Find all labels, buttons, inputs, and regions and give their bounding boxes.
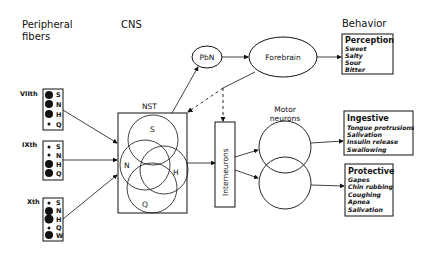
nerve-label-viith: VIIth — [20, 90, 38, 98]
arrow-viith-to-nst — [63, 110, 117, 143]
protective-item: Salivation — [348, 206, 383, 213]
forebrain-label: Forebrain — [265, 53, 301, 62]
header-cns: CNS — [121, 19, 142, 30]
nst-circle-label-s: S — [150, 125, 155, 134]
arrow-interneurons-to-motor-top — [235, 150, 258, 157]
motor-neuron-circle-protective — [259, 157, 311, 209]
fiber-letter: Q — [56, 224, 62, 232]
fiber-dot-large — [45, 207, 53, 215]
fiber-letter: N — [56, 101, 61, 109]
forebrain-descending-line — [223, 72, 255, 88]
taste-pathway-diagram: Peripheral fibers CNS Behavior VIIth S N… — [0, 0, 433, 254]
nst-label: NST — [142, 102, 157, 111]
protective-item: Chin rubbing — [348, 183, 393, 191]
arrow-interneurons-to-motor-bottom — [235, 170, 258, 178]
interneurons-label: Interneurons — [221, 148, 230, 196]
nst-circle-label-q: Q — [142, 200, 148, 209]
nst-circle-label-n: N — [124, 161, 130, 170]
fiber-dot-large — [45, 91, 53, 99]
fiber-letter: H — [56, 111, 61, 119]
protective-title: Protective — [348, 167, 395, 176]
fiber-dot-large — [45, 215, 54, 224]
fiber-letter: N — [56, 152, 61, 160]
fiber-dot-small — [48, 146, 51, 149]
perception-item: Sour — [345, 59, 362, 66]
fiber-letter: H — [56, 161, 61, 169]
fiber-letter: S — [56, 199, 61, 207]
nerve-label-ixth: IXth — [22, 141, 38, 149]
nst-circle-s — [128, 115, 178, 165]
fiber-dot-large — [45, 100, 53, 108]
arrow-nst-to-pbn — [172, 67, 198, 113]
fiber-dot-small — [48, 202, 51, 205]
motor-label-line2: neurons — [270, 114, 300, 123]
fiber-letter: H — [56, 216, 61, 224]
fiber-letter: Q — [56, 121, 62, 129]
arrow-motor-to-protective — [311, 185, 344, 186]
pbn-label: PbN — [200, 53, 215, 62]
diagram-svg: Peripheral fibers CNS Behavior VIIth S N… — [0, 0, 433, 254]
motor-neuron-circle-ingestive — [259, 121, 311, 173]
perception-title: Perception — [345, 36, 394, 45]
fiber-letter: S — [56, 91, 61, 99]
arrow-xth-to-nst — [63, 175, 117, 219]
nerve-label-xth: Xth — [27, 198, 40, 206]
fiber-letter: Q — [56, 170, 62, 178]
dashed-arrow-to-nst — [188, 88, 223, 112]
fiber-letter: W — [56, 232, 63, 240]
ingestive-item: Swallowing — [347, 146, 387, 154]
fiber-dot-large — [45, 110, 53, 118]
fiber-dot-large — [45, 169, 53, 177]
perception-item: Bitter — [345, 66, 366, 73]
nst-circle-h — [140, 146, 188, 194]
ingestive-item: Insulin release — [347, 138, 398, 145]
fiber-letter: S — [56, 143, 61, 151]
header-peripheral-line2: fibers — [22, 31, 50, 42]
perception-item: Sweet — [345, 45, 368, 52]
fiber-dot-small — [48, 123, 51, 126]
fiber-dot-large — [45, 160, 53, 168]
ingestive-title: Ingestive — [347, 114, 389, 123]
fiber-dot-small — [48, 154, 51, 157]
protective-item: Apnea — [347, 198, 370, 206]
fiber-dot-large — [45, 231, 53, 239]
arrow-motor-to-ingestive — [311, 141, 343, 143]
header-behavior: Behavior — [342, 18, 387, 29]
nst-circle-label-h: H — [173, 168, 179, 177]
fiber-dot-small — [48, 227, 51, 230]
ingestive-item: Salivation — [347, 131, 382, 138]
motor-label-line1: Motor — [274, 105, 297, 114]
header-peripheral-line1: Peripheral — [22, 19, 73, 30]
fiber-letter: N — [56, 207, 61, 215]
